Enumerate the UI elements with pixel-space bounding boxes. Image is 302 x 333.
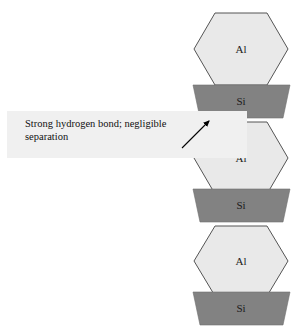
layer-label-si-3: Si: [236, 302, 245, 314]
layer-label-al-3: Al: [236, 255, 247, 267]
annotation-arrow: [178, 112, 224, 152]
layer-label-al-1: Al: [236, 43, 247, 55]
layer-si-2: Si: [193, 189, 290, 222]
arrow-line: [182, 121, 209, 148]
layer-al-1: Al: [194, 13, 288, 85]
layer-si-3: Si: [193, 292, 290, 325]
layer-al-3: Al: [194, 226, 288, 296]
diagram-canvas: Al Si Al Si Al Si Strong hydrogen bond;: [0, 0, 302, 333]
layer-label-si-2: Si: [236, 199, 245, 211]
layer-label-si-1: Si: [236, 95, 245, 107]
layer-stack: Al Si Al Si Al Si: [0, 0, 302, 333]
